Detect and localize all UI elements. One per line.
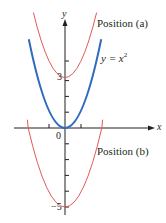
parabola-diagram [0, 0, 166, 223]
label-position-a: Position (a) [97, 18, 148, 29]
tick-label-3: 3 [57, 72, 62, 82]
label-position-b: Position (b) [97, 146, 149, 157]
x-axis-label: x [157, 122, 161, 132]
label-equation: y = x2 [101, 52, 127, 64]
y-axis-label: y [62, 9, 66, 19]
y-axis-arrow-icon [63, 19, 68, 26]
eq-exponent: 2 [124, 51, 128, 59]
tick-label-minus-5: −5 [51, 202, 62, 212]
eq-y: y = [101, 52, 119, 64]
x-axis-arrow-icon [148, 126, 155, 131]
origin-label: 0 [56, 131, 61, 141]
